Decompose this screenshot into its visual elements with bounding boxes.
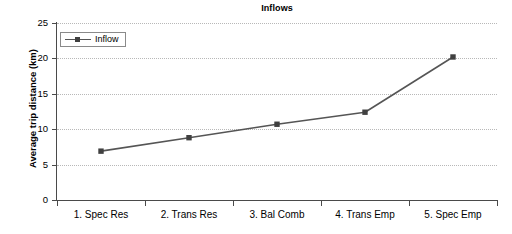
x-tick-label-spec-res: 1. Spec Res bbox=[57, 209, 145, 220]
x-tick-label-bal-comb: 3. Bal Comb bbox=[233, 209, 321, 220]
y-tick-mark-10 bbox=[52, 129, 57, 130]
x-tick-mark-1 bbox=[145, 200, 146, 206]
x-tick-mark-0 bbox=[57, 200, 58, 206]
gridline-5 bbox=[57, 165, 497, 166]
gridline-10 bbox=[57, 129, 497, 130]
y-tick-mark-5 bbox=[52, 165, 57, 166]
x-axis-line bbox=[56, 200, 497, 201]
gridline-25 bbox=[57, 23, 497, 24]
x-tick-mark-2 bbox=[233, 200, 234, 206]
y-tick-label-15: 15 bbox=[14, 88, 48, 99]
gridline-20 bbox=[57, 58, 497, 59]
x-tick-label-trans-emp: 4. Trans Emp bbox=[321, 209, 409, 220]
x-tick-mark-5 bbox=[497, 200, 498, 206]
plot-gridlines bbox=[57, 23, 497, 200]
y-axis-title: Average trip distance (km) bbox=[27, 14, 38, 204]
chart-legend: Inflow bbox=[60, 32, 126, 47]
y-tick-mark-25 bbox=[52, 23, 57, 24]
y-tick-label-5: 5 bbox=[14, 159, 48, 170]
square-marker-icon bbox=[65, 35, 91, 44]
y-axis-line bbox=[56, 22, 57, 201]
y-tick-mark-15 bbox=[52, 94, 57, 95]
y-tick-label-20: 20 bbox=[14, 52, 48, 63]
legend-label-inflow: Inflow bbox=[95, 35, 119, 44]
y-tick-label-25: 25 bbox=[14, 17, 48, 28]
chart-title: Inflows bbox=[57, 3, 497, 13]
x-tick-label-spec-emp: 5. Spec Emp bbox=[409, 209, 497, 220]
y-tick-label-10: 10 bbox=[14, 123, 48, 134]
x-tick-mark-4 bbox=[409, 200, 410, 206]
y-tick-mark-20 bbox=[52, 58, 57, 59]
x-tick-label-trans-res: 2. Trans Res bbox=[145, 209, 233, 220]
chart-container: Inflows Average trip distance (km) 25 20… bbox=[0, 0, 512, 234]
gridline-15 bbox=[57, 94, 497, 95]
x-tick-mark-3 bbox=[321, 200, 322, 206]
y-tick-label-0: 0 bbox=[14, 194, 48, 205]
